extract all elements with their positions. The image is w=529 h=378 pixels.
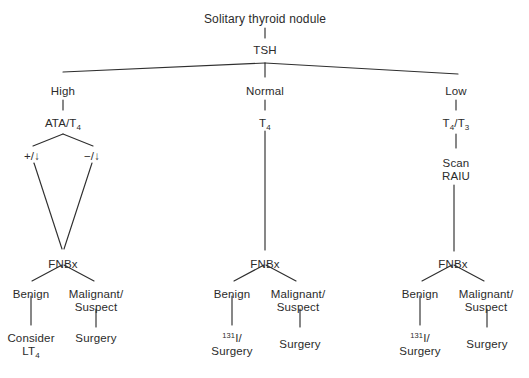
node-ata-t4: ATA/T4 bbox=[45, 117, 81, 130]
node-label-surgery: Surgery bbox=[211, 345, 252, 358]
node-label-malignant: Malignant/ bbox=[69, 288, 124, 301]
edge-neg-down-fnbx-left bbox=[64, 163, 92, 249]
node-label-lt4-base: LT bbox=[22, 345, 35, 357]
subscript-4: 4 bbox=[450, 123, 455, 132]
node-label-normal: Normal bbox=[246, 85, 284, 97]
node-label-malignant: Malignant/ bbox=[459, 288, 514, 301]
node-fnbx-right: FNBx bbox=[438, 258, 467, 271]
node-label-ata-t4: ATA/T bbox=[45, 117, 77, 129]
node-label-i131: 131I/ bbox=[399, 332, 440, 345]
subscript-4: 4 bbox=[77, 123, 82, 132]
node-scan-raiu: Scan RAIU bbox=[442, 157, 470, 183]
node-malignant-suspect-left: Malignant/ Suspect bbox=[69, 288, 124, 314]
thyroid-nodule-flowchart: Solitary thyroid nodule TSH High Normal … bbox=[0, 0, 529, 378]
node-label-suspect: Suspect bbox=[271, 301, 326, 314]
node-tsh-high: High bbox=[51, 85, 75, 98]
node-malignant-suspect-middle: Malignant/ Suspect bbox=[271, 288, 326, 314]
node-label-i131: 131I/ bbox=[211, 332, 252, 345]
node-tsh: TSH bbox=[253, 44, 276, 57]
node-i131-surgery-right: 131I/ Surgery bbox=[399, 332, 440, 358]
node-ata-negative-low-t4: −/↓ bbox=[84, 150, 100, 163]
node-benign-middle: Benign bbox=[214, 288, 251, 301]
node-tsh-normal: Normal bbox=[246, 85, 284, 98]
node-fnbx-left: FNBx bbox=[48, 258, 77, 271]
node-label-high: High bbox=[51, 85, 75, 97]
node-tsh-low: Low bbox=[445, 85, 467, 98]
subscript-4: 4 bbox=[35, 351, 40, 360]
superscript-131: 131 bbox=[410, 331, 423, 340]
node-t4: T4 bbox=[259, 117, 271, 130]
node-label-neg-down: −/↓ bbox=[84, 150, 100, 162]
node-label-suspect: Suspect bbox=[459, 301, 514, 314]
node-label-consider: Consider bbox=[7, 332, 54, 345]
node-label-pos-down: +/↓ bbox=[24, 150, 40, 162]
node-ata-positive-low-t4: +/↓ bbox=[24, 150, 40, 163]
edge-pos-down-fnbx-left bbox=[34, 163, 62, 249]
subscript-3: 3 bbox=[465, 123, 470, 132]
edge-ata-t4-neg-down bbox=[63, 134, 93, 146]
node-label-surgery: Surgery bbox=[75, 332, 116, 344]
node-label-benign: Benign bbox=[214, 288, 251, 300]
node-benign-right: Benign bbox=[402, 288, 439, 301]
node-label-surgery: Surgery bbox=[466, 338, 507, 350]
superscript-131: 131 bbox=[222, 331, 235, 340]
node-label-suspect: Suspect bbox=[69, 301, 124, 314]
node-label-benign: Benign bbox=[13, 288, 50, 300]
node-label-tsh: TSH bbox=[253, 44, 276, 56]
node-label-raiu: RAIU bbox=[442, 170, 470, 183]
subscript-4: 4 bbox=[266, 123, 271, 132]
node-label-root: Solitary thyroid nodule bbox=[204, 12, 326, 26]
node-label-fnbx: FNBx bbox=[48, 258, 77, 270]
node-label-lt4: LT4 bbox=[7, 345, 54, 358]
node-label-t4-t3-part2: /T bbox=[454, 117, 465, 129]
node-label-surgery: Surgery bbox=[399, 345, 440, 358]
node-label-fnbx: FNBx bbox=[250, 258, 279, 270]
node-surgery-right: Surgery bbox=[466, 338, 507, 351]
node-solitary-thyroid-nodule: Solitary thyroid nodule bbox=[204, 13, 326, 26]
node-fnbx-middle: FNBx bbox=[250, 258, 279, 271]
edge-ata-t4-pos-down bbox=[33, 134, 63, 146]
node-surgery-middle: Surgery bbox=[279, 338, 320, 351]
node-label-low: Low bbox=[445, 85, 467, 97]
node-label-benign: Benign bbox=[402, 288, 439, 300]
node-consider-lt4: Consider LT4 bbox=[7, 332, 54, 358]
node-label-fnbx: FNBx bbox=[438, 258, 467, 270]
node-malignant-suspect-right: Malignant/ Suspect bbox=[459, 288, 514, 314]
node-label-scan: Scan bbox=[442, 157, 470, 170]
node-label-surgery: Surgery bbox=[279, 338, 320, 350]
node-label-i131-base: I/ bbox=[235, 332, 242, 344]
node-label-i131-base: I/ bbox=[423, 332, 430, 344]
node-label-malignant: Malignant/ bbox=[271, 288, 326, 301]
edge-tsh-high bbox=[63, 63, 265, 72]
node-i131-surgery-middle: 131I/ Surgery bbox=[211, 332, 252, 358]
edge-tsh-low bbox=[265, 63, 458, 74]
node-t4-t3: T4/T3 bbox=[443, 117, 470, 130]
node-surgery-left: Surgery bbox=[75, 332, 116, 345]
node-benign-left: Benign bbox=[13, 288, 50, 301]
